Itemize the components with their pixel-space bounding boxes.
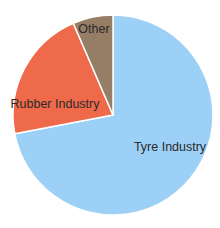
label-tyre-industry: Tyre Industry bbox=[134, 140, 207, 154]
pie-slices bbox=[13, 15, 213, 215]
label-other: Other bbox=[78, 22, 109, 36]
label-rubber-industry: Rubber Industry bbox=[11, 97, 101, 111]
pie-chart: Tyre Industry Rubber Industry Other bbox=[0, 0, 220, 228]
